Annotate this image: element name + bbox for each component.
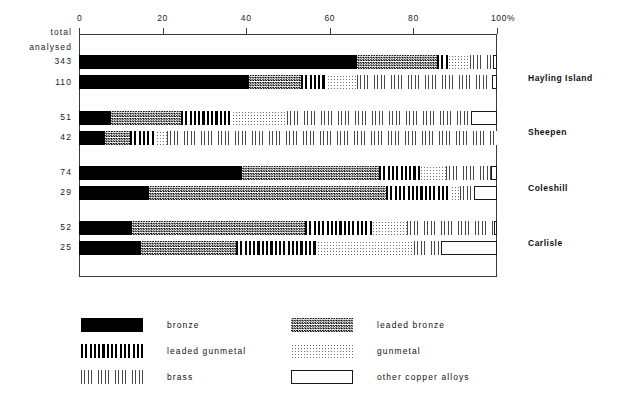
bar-segment-bronze	[79, 221, 132, 235]
bar-segment-leaded_bronze	[242, 166, 379, 180]
bar-segment-leaded_gunmetal	[130, 131, 156, 145]
bar-segment-bronze	[79, 166, 242, 180]
bar-segment-brass	[287, 111, 471, 125]
legend-label-bronze: bronze	[167, 320, 200, 330]
bar-segment-gunmetal	[232, 111, 287, 125]
bar-segment-leaded_bronze	[357, 55, 437, 69]
bar-segment-gunmetal	[156, 131, 167, 145]
legend-swatch-other-copper-alloys-icon	[291, 370, 353, 384]
bar-row-110	[79, 75, 497, 89]
chart-legend: bronze leaded bronze leaded gunmetal gun…	[79, 318, 499, 388]
legend-swatch-brass-icon	[81, 370, 143, 384]
bar-segment-other	[493, 55, 497, 69]
bar-segment-leaded_gunmetal	[386, 186, 451, 200]
bar-segment-leaded_bronze	[105, 131, 130, 145]
bar-segment-gunmetal	[372, 221, 407, 235]
legend-label-leaded-bronze: leaded bronze	[377, 320, 445, 330]
legend-item-leaded-bronze: leaded bronze	[291, 318, 445, 332]
bar-segment-leaded_gunmetal	[181, 111, 232, 125]
bar-segment-other	[474, 186, 497, 200]
bar-segment-brass	[414, 241, 441, 255]
bar-segment-gunmetal	[448, 55, 470, 69]
bar-segment-leaded_bronze	[149, 186, 386, 200]
legend-swatch-leaded-bronze-icon	[291, 318, 353, 332]
bar-segment-other	[471, 111, 497, 125]
bar-segment-leaded_gunmetal	[379, 166, 420, 180]
legend-item-leaded-gunmetal: leaded gunmetal	[81, 344, 246, 358]
legend-label-leaded-gunmetal: leaded gunmetal	[167, 346, 246, 356]
bar-row-42	[79, 131, 497, 145]
legend-label-brass: brass	[167, 372, 193, 382]
bar-segment-other	[491, 166, 497, 180]
bar-row-29	[79, 186, 497, 200]
legend-item-brass: brass	[81, 370, 193, 384]
bar-segment-leaded_gunmetal	[305, 221, 372, 235]
bar-segment-leaded_bronze	[132, 221, 305, 235]
bar-segment-leaded_bronze	[141, 241, 236, 255]
bar-segment-bronze	[79, 131, 105, 145]
bar-segment-gunmetal	[327, 75, 357, 89]
bar-segment-leaded_gunmetal	[301, 75, 327, 89]
bar-row-25	[79, 241, 497, 255]
bar-segment-other	[492, 75, 497, 89]
bar-segment-brass	[167, 131, 497, 145]
bar-row-52	[79, 221, 497, 235]
bar-segment-brass	[357, 75, 492, 89]
site-label-coleshill: Coleshill	[528, 183, 568, 193]
legend-label-other-copper-alloys: other copper alloys	[377, 372, 470, 382]
legend-item-other-copper-alloys: other copper alloys	[291, 370, 470, 384]
bar-segment-gunmetal	[420, 166, 446, 180]
bar-segment-brass	[470, 55, 493, 69]
legend-item-bronze: bronze	[81, 318, 200, 332]
bar-segment-leaded_gunmetal	[437, 55, 448, 69]
bar-segment-bronze	[79, 55, 357, 69]
legend-label-gunmetal: gunmetal	[377, 346, 421, 356]
legend-swatch-gunmetal-icon	[291, 344, 353, 358]
legend-swatch-bronze-icon	[81, 318, 143, 332]
bar-segment-bronze	[79, 186, 149, 200]
legend-swatch-leaded-gunmetal-icon	[81, 344, 143, 358]
site-label-hayling-island: Hayling Island	[528, 73, 593, 83]
bar-segment-leaded_bronze	[111, 111, 181, 125]
site-label-sheepen: Sheepen	[528, 127, 567, 137]
bar-row-74	[79, 166, 497, 180]
legend-item-gunmetal: gunmetal	[291, 344, 421, 358]
bar-segment-other	[494, 221, 497, 235]
site-label-carlisle: Carlisle	[528, 238, 563, 248]
bar-segment-gunmetal	[451, 186, 460, 200]
bar-segment-leaded_gunmetal	[236, 241, 317, 255]
bar-segment-brass	[460, 186, 474, 200]
bar-row-343	[79, 55, 497, 69]
bar-segment-leaded_bronze	[249, 75, 301, 89]
bar-segment-bronze	[79, 111, 111, 125]
bar-segment-gunmetal	[317, 241, 414, 255]
bar-segment-brass	[407, 221, 494, 235]
bar-segment-bronze	[79, 241, 141, 255]
bar-segment-brass	[446, 166, 491, 180]
bar-segment-bronze	[79, 75, 249, 89]
bar-segment-other	[441, 241, 497, 255]
bar-row-51	[79, 111, 497, 125]
